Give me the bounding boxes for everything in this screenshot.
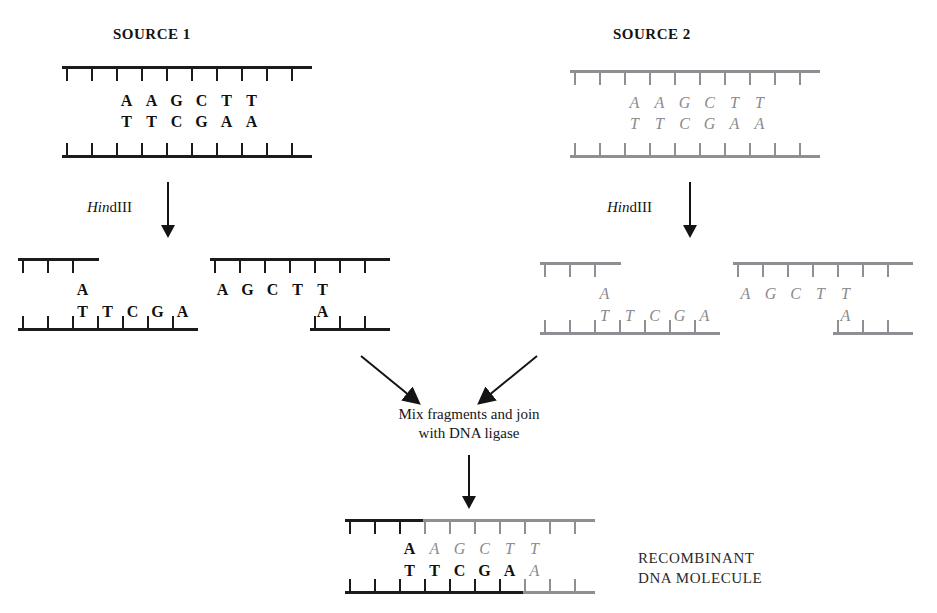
mix-caption-line-1: Mix fragments and join — [349, 405, 589, 424]
bottom-bases: TTCGAA — [114, 113, 264, 130]
base-letter: A — [692, 307, 717, 324]
strand-tick — [749, 72, 751, 85]
bottom-bases: TTCGA — [70, 303, 195, 320]
source-1-right-fragment: AGCTTA — [210, 258, 390, 340]
base-letter: T — [592, 307, 617, 324]
strand-tick — [449, 521, 451, 534]
strand-tick — [22, 316, 24, 329]
strand-tick — [549, 521, 551, 534]
mix-caption: Mix fragments and join with DNA ligase — [349, 405, 589, 443]
top-bases: AAGCTT — [114, 92, 264, 109]
strand-tick — [241, 68, 243, 81]
bottom-backbone-gray — [523, 591, 595, 594]
strand-tick — [524, 579, 526, 592]
mix-caption-line-2: with DNA ligase — [349, 424, 589, 443]
strand-tick — [449, 579, 451, 592]
base-letter: A — [70, 281, 95, 298]
strand-tick — [22, 260, 24, 273]
strand-tick — [624, 72, 626, 85]
top-bases: A — [70, 281, 95, 298]
base-letter: A — [722, 115, 747, 132]
strand-tick — [374, 579, 376, 592]
base-letter: T — [214, 92, 239, 109]
strand-tick — [349, 521, 351, 534]
base-letter: A — [170, 303, 195, 320]
base-letter: T — [239, 92, 264, 109]
strand-tick — [544, 264, 546, 277]
base-letter: A — [647, 94, 672, 111]
base-letter: T — [622, 115, 647, 132]
ligation-arrow — [461, 455, 477, 511]
strand-tick — [574, 143, 576, 156]
base-letter: T — [647, 115, 672, 132]
base-letter: T — [722, 94, 747, 111]
base-letter: A — [422, 540, 447, 557]
strand-tick — [599, 72, 601, 85]
base-letter: T — [70, 303, 95, 320]
strand-tick — [47, 260, 49, 273]
strand-tick — [116, 143, 118, 156]
base-letter: C — [189, 92, 214, 109]
strand-tick — [674, 72, 676, 85]
converging-arrows — [355, 352, 545, 412]
base-letter: G — [235, 281, 260, 298]
strand-tick — [574, 579, 576, 592]
base-letter: T — [522, 540, 547, 557]
top-bases: AAGCTT — [622, 94, 772, 111]
base-letter: A — [522, 562, 547, 579]
top-backbone-black — [345, 519, 425, 522]
base-letter: C — [697, 94, 722, 111]
strand-tick — [887, 264, 889, 277]
base-letter: T — [285, 281, 310, 298]
source-1-title: SOURCE 1 — [113, 26, 191, 43]
base-letter: G — [697, 115, 722, 132]
strand-tick — [374, 521, 376, 534]
strand-tick — [216, 68, 218, 81]
strand-tick — [774, 72, 776, 85]
strand-tick — [91, 68, 93, 81]
source-1-duplex: AAGCTTTTCGAA — [62, 66, 312, 158]
strand-tick — [774, 143, 776, 156]
strand-tick — [166, 68, 168, 81]
strand-tick — [837, 264, 839, 277]
base-letter: T — [95, 303, 120, 320]
strand-tick — [241, 143, 243, 156]
enzyme-upright-part-right: dIII — [630, 199, 653, 215]
base-letter: A — [833, 307, 858, 324]
bottom-backbone-black — [345, 591, 525, 594]
strand-tick — [749, 143, 751, 156]
strand-tick — [674, 143, 676, 156]
strand-tick — [569, 264, 571, 277]
figure-canvas: SOURCE 1 AAGCTTTTCGAA SOURCE 2 AAGCTTTTC… — [0, 0, 937, 613]
strand-tick — [574, 72, 576, 85]
base-letter: A — [139, 92, 164, 109]
base-letter: A — [210, 281, 235, 298]
top-bases: A — [592, 285, 617, 302]
enzyme-label-left: HindIII — [87, 199, 132, 216]
enzyme-italic-part-right: Hin — [607, 199, 630, 215]
strand-tick — [349, 579, 351, 592]
strand-tick — [812, 264, 814, 277]
strand-tick — [762, 264, 764, 277]
strand-tick — [214, 260, 216, 273]
strand-tick — [569, 320, 571, 333]
strand-tick — [799, 72, 801, 85]
digest-arrow-left — [160, 182, 176, 238]
base-letter: A — [397, 540, 422, 557]
strand-tick — [364, 316, 366, 329]
base-letter: A — [622, 94, 647, 111]
base-letter: C — [472, 540, 497, 557]
base-letter: T — [114, 113, 139, 130]
digest-arrow-right — [682, 182, 698, 238]
top-backbone — [733, 262, 913, 265]
strand-tick — [474, 521, 476, 534]
strand-tick — [141, 143, 143, 156]
source-2-left-fragment: ATTCGA — [540, 262, 720, 344]
base-letter: C — [260, 281, 285, 298]
strand-tick — [424, 579, 426, 592]
bottom-bases: A — [310, 303, 335, 320]
recombinant-duplex: AAGCTTTTCGAA — [345, 519, 595, 599]
base-letter: G — [472, 562, 497, 579]
strand-tick — [289, 260, 291, 273]
strand-tick — [787, 264, 789, 277]
